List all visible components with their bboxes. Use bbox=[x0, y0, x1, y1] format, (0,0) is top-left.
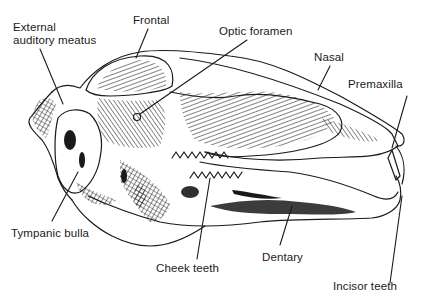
label-tympanic-bulla: Tympanic bulla bbox=[11, 227, 89, 240]
leader-nasal bbox=[318, 66, 330, 90]
label-frontal: Frontal bbox=[133, 14, 170, 27]
leader-tympanic-bulla bbox=[52, 172, 78, 221]
label-optic-foramen: Optic foramen bbox=[219, 25, 293, 38]
leader-cheek-teeth bbox=[197, 178, 210, 259]
leader-external-auditory-meatus bbox=[40, 49, 63, 104]
leader-frontal bbox=[136, 29, 148, 58]
leader-premaxilla bbox=[392, 96, 407, 148]
label-cheek-teeth: Cheek teeth bbox=[156, 262, 219, 275]
leader-incisor-teeth bbox=[390, 196, 402, 283]
skull-diagram: External auditory meatus Frontal Optic f… bbox=[0, 0, 424, 303]
label-incisor-teeth: Incisor teeth bbox=[333, 280, 397, 293]
label-dentary: Dentary bbox=[262, 251, 303, 264]
label-nasal: Nasal bbox=[314, 51, 344, 64]
label-premaxilla: Premaxilla bbox=[348, 78, 403, 91]
label-external-auditory-meatus: External auditory meatus bbox=[13, 21, 96, 47]
